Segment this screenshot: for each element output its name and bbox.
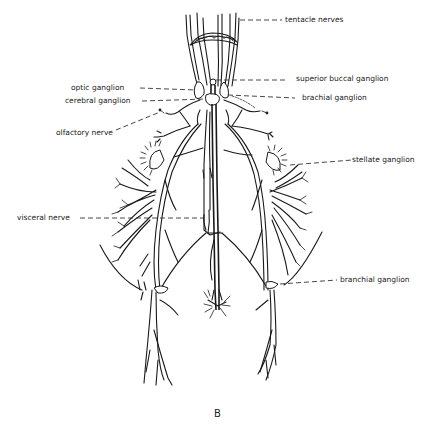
label-stellate-ganglion: stellate ganglion	[352, 155, 415, 164]
branchial-ganglia	[154, 281, 278, 293]
label-branchial-ganglion: branchial ganglion	[340, 275, 410, 284]
right-mantle-nerves	[250, 165, 322, 285]
label-brachial-ganglion: brachial ganglion	[302, 93, 367, 102]
pallial-nerves	[154, 124, 268, 290]
cerebral-ganglion	[206, 94, 220, 106]
label-visceral-nerve: visceral nerve	[17, 213, 70, 222]
label-cerebral-ganglion: cerebral ganglion	[65, 96, 131, 105]
central-cords	[174, 104, 252, 310]
brain-ganglia	[159, 79, 269, 126]
optic-ganglion-left	[194, 82, 204, 99]
figure-caption: B	[214, 408, 221, 419]
label-tentacle-nerves: tentacle nerves	[285, 15, 343, 24]
label-optic-ganglion: optic ganglion	[71, 83, 124, 92]
label-olfactory-nerve: olfactory nerve	[56, 128, 113, 137]
label-superior-buccal-ganglion: superior buccal ganglion	[296, 74, 388, 83]
olfactory-nerve-tips	[154, 126, 273, 142]
superior-buccal-ganglion	[210, 79, 216, 85]
visceral-terminal	[204, 290, 230, 318]
lower-branches	[144, 290, 276, 385]
